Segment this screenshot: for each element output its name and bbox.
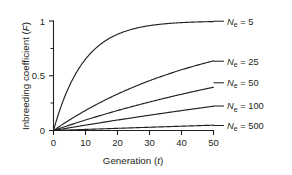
series-label-ne-100-suffix: = 100 bbox=[238, 101, 264, 111]
x-tick-label-20: 20 bbox=[112, 137, 123, 148]
y-tick-label-0: 0 bbox=[40, 125, 45, 136]
y-tick-label-05: 0.5 bbox=[32, 70, 45, 81]
series-label-ne-50-suffix: = 50 bbox=[238, 78, 259, 88]
series-leader-lines bbox=[214, 21, 225, 125]
x-tick-label-10: 10 bbox=[80, 137, 91, 148]
inbreeding-coefficient-line-chart: 0 0.5 1 0 10 20 30 40 50 Generation (t) … bbox=[0, 0, 292, 175]
series-label-ne-5-suffix: = 5 bbox=[238, 17, 254, 27]
curve-ne-50 bbox=[54, 87, 214, 130]
x-tick-label-40: 40 bbox=[176, 137, 187, 148]
series-label-ne-5: Ne = 5 bbox=[227, 17, 253, 28]
x-tick-labels: 0 10 20 30 40 50 bbox=[51, 137, 219, 148]
series-label-ne-500-suffix: = 500 bbox=[238, 121, 264, 131]
x-axis-title: Generation (t) bbox=[103, 155, 163, 166]
series-label-ne-25-suffix: = 25 bbox=[238, 57, 259, 67]
curve-ne-100 bbox=[54, 106, 214, 130]
y-axis-ticks bbox=[49, 21, 54, 131]
series-labels: Ne = 5 Ne = 25 Ne = 50 Ne = 100 Ne = 500 bbox=[227, 17, 264, 133]
x-tick-label-0: 0 bbox=[51, 137, 56, 148]
series-curves bbox=[54, 22, 214, 131]
x-tick-label-30: 30 bbox=[144, 137, 155, 148]
chart-figure: 0 0.5 1 0 10 20 30 40 50 Generation (t) … bbox=[0, 0, 292, 175]
series-label-ne-50: Ne = 50 bbox=[227, 78, 259, 89]
series-label-ne-25: Ne = 25 bbox=[227, 57, 259, 68]
series-label-ne-500: Ne = 500 bbox=[227, 121, 264, 132]
x-tick-label-50: 50 bbox=[208, 137, 219, 148]
y-axis-title-main: Inbreeding coefficient ( bbox=[20, 30, 31, 130]
axes bbox=[54, 21, 214, 131]
x-axis-title-tail: ) bbox=[160, 155, 163, 166]
y-axis-title: Inbreeding coefficient (F) bbox=[20, 22, 31, 130]
y-tick-label-1: 1 bbox=[40, 16, 45, 27]
x-axis-title-main: Generation ( bbox=[103, 155, 158, 166]
series-label-ne-100: Ne = 100 bbox=[227, 101, 264, 112]
curve-ne-5 bbox=[54, 22, 214, 131]
y-tick-labels: 0 0.5 1 bbox=[32, 16, 45, 136]
y-axis-title-tail: ) bbox=[20, 22, 31, 25]
x-axis-ticks bbox=[54, 131, 214, 136]
